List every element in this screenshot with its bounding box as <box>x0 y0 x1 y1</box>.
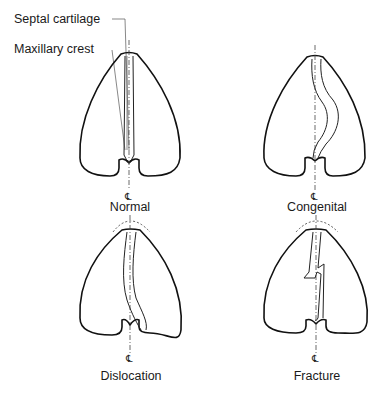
normal-nose-outline <box>80 53 180 177</box>
leader-lines <box>112 19 129 150</box>
caption-normal: Normal <box>110 200 150 214</box>
dislocation-nose-outline <box>80 221 181 338</box>
fracture-septum <box>304 232 324 321</box>
dislocation-septum <box>124 232 147 330</box>
caption-congenital: Congenital <box>287 200 347 214</box>
nasal-septum-diagram: ℄ ℄ ℄ ℄ <box>0 0 386 393</box>
fracture-centerline-symbol: ℄ <box>311 353 319 364</box>
dislocation-centerline-symbol: ℄ <box>125 353 133 364</box>
congenital-nose-outline <box>264 56 365 177</box>
caption-dislocation: Dislocation <box>100 369 161 383</box>
congenital-septum-deviated <box>312 59 339 158</box>
caption-fracture: Fracture <box>294 369 341 383</box>
